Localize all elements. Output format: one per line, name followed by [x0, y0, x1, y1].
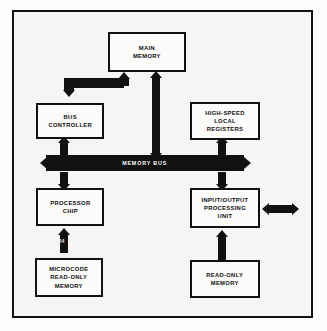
- arrowhead-down-bus-controller: [63, 90, 75, 97]
- block-high-speed-registers[interactable]: HIGH-SPEED LOCAL REGISTERS: [190, 102, 260, 140]
- block-high-speed-registers-label: HIGH-SPEED LOCAL REGISTERS: [205, 109, 244, 134]
- block-bus-controller[interactable]: BUS CONTROLLER: [36, 103, 104, 139]
- connector-shaft-vertical: [152, 77, 160, 155]
- connector-shaft-vertical: [60, 142, 68, 156]
- arrowhead-right-memory-bus: [244, 157, 251, 169]
- block-io-processing-unit-label: INPUT/OUTPUT PROCESSING UNIT: [202, 196, 249, 221]
- block-microcode-rom-label: MICROCODE READ-ONLY MEMORY: [49, 265, 88, 290]
- connector-shaft-vertical: [218, 236, 226, 260]
- block-main-memory-label: MAIN MEMORY: [133, 44, 161, 60]
- block-read-only-memory[interactable]: READ-ONLY MEMORY: [190, 260, 260, 298]
- block-microcode-rom[interactable]: MICROCODE READ-ONLY MEMORY: [35, 258, 103, 297]
- block-io-processing-unit[interactable]: INPUT/OUTPUT PROCESSING UNIT: [190, 188, 260, 228]
- block-processor-chip[interactable]: PROCESSOR CHIP: [36, 188, 104, 226]
- memory-bus-bar: MEMORY BUS: [46, 155, 244, 171]
- diagram-screenshot: MEMORY BUS 54 MAIN MEMORY BUS CONTROLLER…: [0, 0, 327, 331]
- block-read-only-memory-label: READ-ONLY MEMORY: [206, 271, 243, 287]
- connector-shaft-horizontal: [268, 205, 292, 213]
- block-main-memory[interactable]: MAIN MEMORY: [108, 32, 186, 72]
- memory-bus-label: MEMORY BUS: [123, 160, 168, 166]
- block-processor-chip-label: PROCESSOR CHIP: [50, 199, 90, 215]
- connector-shaft-vertical: [218, 142, 226, 156]
- arrowhead-right-external: [292, 203, 299, 215]
- figure-tag: 54: [59, 239, 65, 244]
- block-bus-controller-label: BUS CONTROLLER: [48, 113, 92, 129]
